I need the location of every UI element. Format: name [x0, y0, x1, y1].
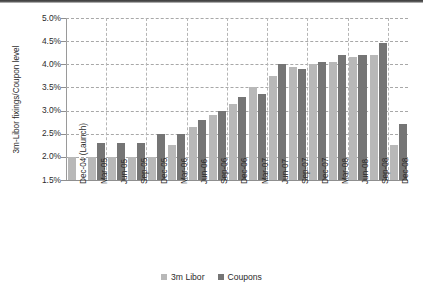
bar-group [307, 18, 327, 180]
bar-3m-libor[interactable] [329, 62, 337, 180]
y-tick-mark [61, 180, 66, 181]
bar-3m-libor[interactable] [289, 67, 297, 180]
bar-chart: 3m-Libor fixings/Coupon level 5.0%4.5%4.… [0, 0, 423, 300]
bar-group [287, 18, 307, 180]
bar-3m-libor[interactable] [108, 157, 116, 180]
bar-group [86, 18, 106, 180]
y-tick-label: 3.0% [28, 106, 61, 114]
y-tick-label: 4.0% [28, 60, 61, 68]
bar-group [146, 18, 166, 180]
chart-legend: 3m LiborCoupons [0, 272, 423, 282]
bar-3m-libor[interactable] [128, 157, 136, 180]
bar-group [247, 18, 267, 180]
x-tick-label: Mar-08 [341, 158, 350, 184]
bar-3m-libor[interactable] [148, 157, 156, 180]
x-tick-label: Dec-05 [160, 158, 169, 184]
y-tick-label: 3.5% [28, 83, 61, 91]
x-tick-label: Jun-06 [200, 159, 209, 184]
legend-swatch-icon [218, 274, 224, 280]
bar-group [167, 18, 187, 180]
x-tick-label: Sep-06 [220, 158, 229, 184]
x-tick-label: Dec-04 (Launch) [79, 123, 88, 184]
x-tick-label: Jun-05 [120, 159, 129, 184]
x-tick-label: Mar-05 [100, 158, 109, 184]
bar-group [267, 18, 287, 180]
bar-3m-libor[interactable] [249, 87, 257, 180]
x-tick-label: Dec-08 [401, 158, 410, 184]
bar-group [328, 18, 348, 180]
bar-3m-libor[interactable] [209, 115, 217, 180]
plot-area [66, 18, 408, 180]
bar-group [207, 18, 227, 180]
x-tick-label: Mar-06 [180, 158, 189, 184]
bar-group [106, 18, 126, 180]
legend-label: Coupons [228, 272, 262, 282]
x-tick-label: Sep-08 [381, 158, 390, 184]
bar-group [368, 18, 388, 180]
x-tick-label: Mar-07 [261, 158, 270, 184]
bar-3m-libor[interactable] [269, 76, 277, 180]
x-tick-label: Dec-07 [321, 158, 330, 184]
x-tick-label: Jun-07 [281, 159, 290, 184]
x-tick-label: Dec-06 [240, 158, 249, 184]
x-tick-label: Jun-08 [361, 159, 370, 184]
bar-3m-libor[interactable] [68, 157, 76, 180]
y-tick-label: 5.0% [28, 14, 61, 22]
y-tick-label: 2.0% [28, 152, 61, 160]
legend-item[interactable]: 3m Libor [161, 272, 204, 282]
y-axis-title: 3m-Libor fixings/Coupon level [12, 12, 21, 188]
bar-3m-libor[interactable] [370, 55, 378, 180]
bar-3m-libor[interactable] [229, 104, 237, 180]
y-tick-label: 4.5% [28, 37, 61, 45]
legend-item[interactable]: Coupons [218, 272, 262, 282]
bar-3m-libor[interactable] [390, 145, 398, 180]
legend-swatch-icon [161, 274, 167, 280]
bar-3m-libor[interactable] [309, 64, 317, 180]
bar-3m-libor[interactable] [88, 157, 96, 180]
legend-label: 3m Libor [171, 272, 204, 282]
x-tick-label: Sep-07 [301, 158, 310, 184]
bar-3m-libor[interactable] [168, 145, 176, 180]
x-tick-label: Sep-05 [140, 158, 149, 184]
bar-group [227, 18, 247, 180]
y-tick-label: 2.5% [28, 129, 61, 137]
y-tick-label: 1.5% [28, 176, 61, 184]
bar-3m-libor[interactable] [189, 127, 197, 180]
bar-group [388, 18, 408, 180]
bar-3m-libor[interactable] [349, 57, 357, 180]
x-axis-line [66, 180, 408, 181]
bar-group [187, 18, 207, 180]
bar-group [126, 18, 146, 180]
bar-group [348, 18, 368, 180]
